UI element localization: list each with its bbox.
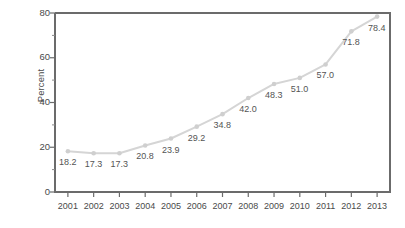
value-label-2002: 17.3 — [85, 159, 103, 169]
data-point-2005 — [169, 136, 174, 141]
axis-frame — [55, 13, 390, 192]
data-point-2004 — [143, 143, 148, 148]
data-point-2001 — [66, 149, 71, 154]
chart-figure: Percent 80 60 40 20 0 20 — [0, 0, 405, 228]
data-point-2011 — [323, 62, 328, 67]
data-point-2003 — [117, 151, 122, 156]
value-label-2005: 23.9 — [162, 145, 180, 155]
data-point-2002 — [91, 151, 96, 156]
value-label-2003: 17.3 — [110, 159, 128, 169]
data-point-2008 — [246, 96, 251, 101]
value-label-2011: 57.0 — [317, 70, 335, 80]
value-label-2004: 20.8 — [136, 151, 154, 161]
data-point-2009 — [272, 82, 277, 87]
value-label-2007: 34.8 — [214, 120, 232, 130]
plot-area — [0, 0, 405, 228]
value-label-2012: 71.8 — [342, 37, 360, 47]
data-point-2006 — [194, 124, 199, 129]
value-label-2009: 48.3 — [265, 90, 283, 100]
data-point-2012 — [349, 29, 354, 34]
x-major-ticks — [68, 192, 377, 197]
y-major-ticks — [50, 13, 55, 192]
data-point-2007 — [220, 112, 225, 117]
data-point-2010 — [298, 76, 303, 81]
x-tick-label-2013: 2013 — [360, 201, 394, 211]
value-label-2013: 78.4 — [368, 23, 386, 33]
value-label-2006: 29.2 — [188, 133, 206, 143]
data-point-2013 — [375, 14, 380, 19]
data-markers — [66, 14, 380, 155]
data-line — [68, 17, 377, 154]
value-label-2010: 51.0 — [291, 84, 309, 94]
value-label-2001: 18.2 — [59, 157, 77, 167]
value-label-2008: 42.0 — [239, 104, 257, 114]
